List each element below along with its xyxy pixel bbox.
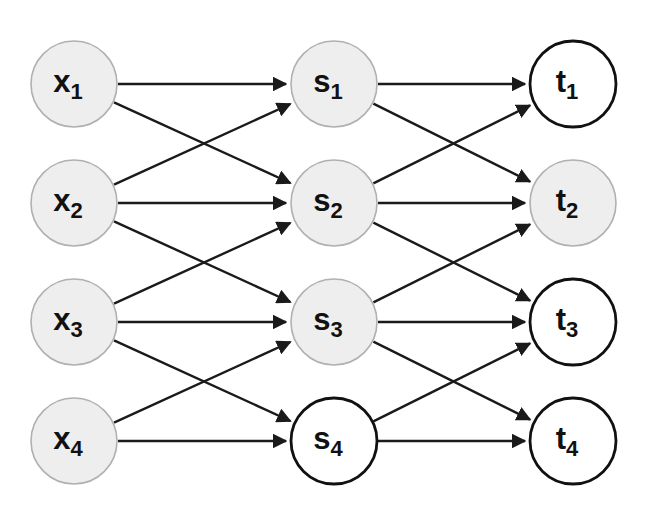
node-subscript-s1: 1 <box>331 79 343 104</box>
node-subscript-t3: 3 <box>566 317 578 342</box>
node-subscript-t1: 1 <box>566 79 578 104</box>
node-s2[interactable]: s2 <box>291 160 377 246</box>
node-subscript-s2: 2 <box>331 198 343 223</box>
node-t3[interactable]: t3 <box>530 279 616 365</box>
edge-x3-to-s4 <box>114 340 290 421</box>
node-subscript-x1: 1 <box>71 79 83 104</box>
edge-x2-to-s1 <box>114 104 290 185</box>
node-x4[interactable]: x4 <box>31 398 117 484</box>
edges-group <box>114 84 530 441</box>
node-subscript-t4: 4 <box>566 436 579 461</box>
node-t4[interactable]: t4 <box>530 398 616 484</box>
node-subscript-x3: 3 <box>71 317 83 342</box>
diagram-canvas: x1x2x3x4s1s2s3s4t1t2t3t4 <box>0 0 648 515</box>
edge-s3-to-t4 <box>373 342 530 420</box>
node-s1[interactable]: s1 <box>291 41 377 127</box>
edge-x2-to-s3 <box>114 221 290 302</box>
edge-s4-to-t3 <box>373 343 530 421</box>
node-x1[interactable]: x1 <box>31 41 117 127</box>
node-subscript-s3: 3 <box>331 317 343 342</box>
node-s3[interactable]: s3 <box>291 279 377 365</box>
node-subscript-x2: 2 <box>71 198 83 223</box>
edge-s2-to-t1 <box>373 105 530 183</box>
graph-svg: x1x2x3x4s1s2s3s4t1t2t3t4 <box>0 0 648 515</box>
edge-x1-to-s2 <box>114 102 290 183</box>
edge-s1-to-t2 <box>373 104 530 182</box>
node-s4[interactable]: s4 <box>291 398 377 484</box>
edge-x4-to-s3 <box>114 342 290 423</box>
node-subscript-t2: 2 <box>566 198 578 223</box>
node-x3[interactable]: x3 <box>31 279 117 365</box>
node-subscript-x4: 4 <box>71 436 84 461</box>
node-t1[interactable]: t1 <box>530 41 616 127</box>
edge-s3-to-t2 <box>373 224 530 302</box>
edge-x3-to-s2 <box>114 223 290 304</box>
edge-s2-to-t3 <box>373 223 530 301</box>
node-x2[interactable]: x2 <box>31 160 117 246</box>
node-t2[interactable]: t2 <box>530 160 616 246</box>
node-subscript-s4: 4 <box>331 436 344 461</box>
